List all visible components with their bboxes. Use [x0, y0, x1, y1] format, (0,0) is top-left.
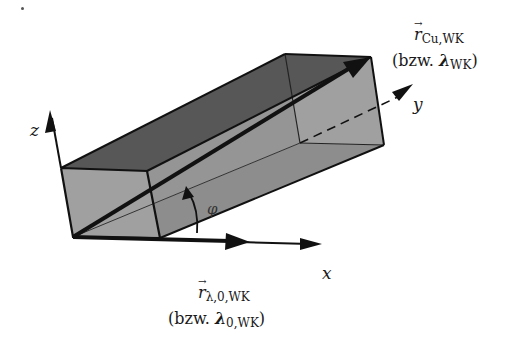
front-face [61, 168, 160, 238]
x-axis-label: x [322, 263, 332, 283]
vector-top-alt-symbol: λ [439, 51, 450, 70]
vector-bottom-label: rλ,0,WK (bzw. λ0,WK) [168, 283, 318, 333]
angle-phi-label: φ [207, 200, 218, 218]
vector-top-label: rCu,WK (bzw. λWK) [392, 25, 529, 75]
vector-top-alt-suffix: ) [471, 51, 477, 70]
vector-top-subscript: Cu,WK [422, 32, 464, 46]
y-axis-label: y [413, 94, 423, 114]
vector-bottom-alt-subscript: 0,WK [226, 316, 259, 330]
vector-bottom-alt-symbol: λ [215, 309, 226, 328]
z-axis-label: z [30, 120, 39, 140]
vector-top-symbol: r [414, 25, 422, 44]
vector-bottom-symbol: r [198, 283, 206, 302]
vector-bottom-alt-suffix: ) [259, 309, 265, 328]
vector-top-alt-subscript: WK [450, 58, 471, 72]
z-axis-arrowhead [45, 110, 56, 133]
vector-bottom-subscript: λ,0,WK [206, 290, 250, 304]
vector-r-lambda0 [73, 237, 230, 241]
vector-top-alt-prefix: (bzw. [392, 51, 439, 70]
x-axis [240, 242, 310, 244]
vector-bottom-alt-prefix: (bzw. [168, 309, 215, 328]
x-axis-arrowhead [300, 238, 322, 250]
